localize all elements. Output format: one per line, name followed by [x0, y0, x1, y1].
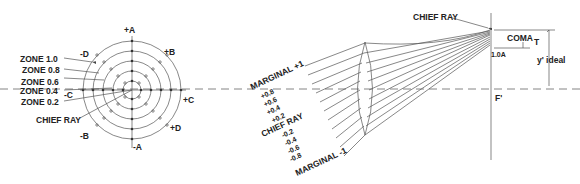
coma-diagram: +A -A +B -B +C -C +D -D ZONE 1.0 ZONE 0.… [0, 0, 580, 184]
lens [358, 42, 373, 135]
focal-point-label: F' [495, 93, 502, 103]
marginal-minus-label: MARGINAL -1 [294, 145, 349, 178]
coma-subscript: T [534, 37, 540, 47]
pupil-label-minus-b: -B [80, 131, 89, 141]
marginal-plus-label: MARGINAL +1 [249, 58, 306, 92]
pupil-label-minus-d: -D [80, 49, 89, 59]
zone-label-1-0: ZONE 1.0 [20, 54, 58, 64]
pupil-chief-ray-label: CHIEF RAY [36, 115, 81, 125]
zone-label-0-4: ZONE 0.4 [20, 86, 58, 96]
ray-fan [305, 30, 490, 156]
pupil-label-plus-c: +C [183, 95, 194, 105]
pupil-label-plus-d: +D [170, 123, 181, 133]
coma-label: COMA [507, 33, 533, 43]
height-label: 1.0A [491, 51, 506, 58]
pupil-label-minus-c: -C [64, 90, 73, 100]
y-ideal-label: y' ideal [537, 55, 565, 65]
image-chief-ray-label: CHIEF RAY [413, 12, 458, 22]
zone-label-0-8: ZONE 0.8 [22, 65, 60, 75]
pupil-label-minus-a: -A [133, 142, 142, 152]
pupil-label-plus-a: +A [124, 25, 135, 35]
zone-label-0-2: ZONE 0.2 [21, 97, 59, 107]
pupil-label-plus-b: +B [164, 47, 175, 57]
